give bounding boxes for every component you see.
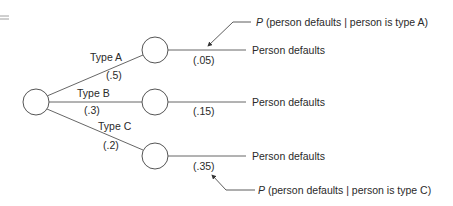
- branch-prob-a: (.5): [106, 69, 122, 81]
- annotation-c-text: (person defaults | person is type C): [265, 184, 431, 196]
- outcome-prob-c: (.35): [193, 160, 215, 172]
- annotation-a: P (person defaults | person is type A): [256, 16, 428, 28]
- probability-tree-diagram: Type A (.5) Type B (.3) Type C (.2) (.05…: [0, 0, 453, 206]
- annotation-a-text: (person defaults | person is type A): [263, 16, 428, 28]
- outcome-label-c: Person defaults: [252, 150, 325, 162]
- outcome-prob-b: (.15): [193, 105, 215, 117]
- node-type-a: [142, 37, 168, 63]
- branch-label-a: Type A: [90, 51, 122, 63]
- branch-prob-c: (.2): [103, 139, 119, 151]
- annotation-c: P (person defaults | person is type C): [258, 184, 431, 196]
- outcome-label-b: Person defaults: [252, 96, 325, 108]
- annotation-a-prefix: P: [256, 16, 263, 28]
- branch-label-b: Type B: [77, 87, 110, 99]
- outcome-label-a: Person defaults: [252, 44, 325, 56]
- annotation-arrow-a: [208, 22, 251, 46]
- outcome-prob-a: (.05): [193, 54, 215, 66]
- annotation-c-prefix: P: [258, 184, 265, 196]
- annotation-arrow-c: [212, 175, 255, 190]
- equals-mark: [0, 16, 9, 19]
- node-type-c: [142, 143, 168, 169]
- branch-prob-b: (.3): [84, 104, 100, 116]
- branch-label-c: Type C: [98, 120, 132, 132]
- root-node: [23, 89, 49, 115]
- node-type-b: [142, 89, 168, 115]
